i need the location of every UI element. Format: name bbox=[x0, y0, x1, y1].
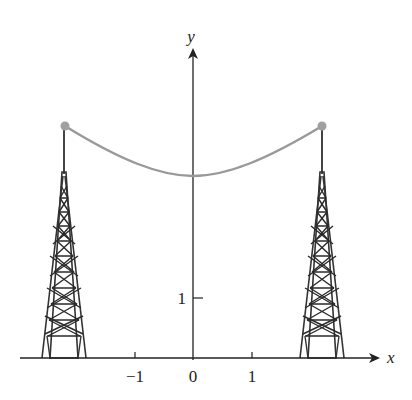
right-endpoint bbox=[318, 122, 327, 131]
y-axis-label: y bbox=[185, 27, 195, 46]
x-axis-label: x bbox=[386, 348, 395, 367]
left-endpoint bbox=[61, 122, 70, 131]
tick-label-x-neg1: −1 bbox=[126, 367, 144, 386]
tick-label-x-0: 0 bbox=[189, 367, 198, 386]
figure-svg: −1 0 1 1 x y bbox=[0, 0, 412, 400]
right-tower bbox=[300, 126, 344, 358]
catenary-figure: −1 0 1 1 x y bbox=[0, 0, 412, 400]
tick-label-x-1: 1 bbox=[248, 367, 257, 386]
tick-label-y-1: 1 bbox=[178, 289, 187, 308]
left-tower bbox=[42, 126, 86, 358]
